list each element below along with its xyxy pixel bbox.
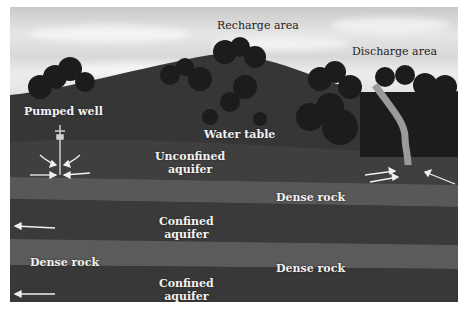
label-recharge-area: Recharge area (217, 19, 299, 32)
label-line: aquifer (155, 163, 225, 176)
label-pumped-well: Pumped well (24, 105, 103, 118)
label-dense-rock-left: Dense rock (30, 256, 99, 269)
groundwater-diagram: Recharge area Discharge area Pumped well… (10, 7, 458, 302)
label-line: Confined (159, 215, 214, 228)
label-water-table: Water table (204, 128, 275, 141)
label-dense-rock-upper: Dense rock (276, 191, 345, 204)
label-line: aquifer (159, 290, 214, 302)
label-confined-aquifer-lower: Confined aquifer (159, 277, 214, 302)
label-confined-aquifer-upper: Confined aquifer (159, 215, 214, 241)
confined-aquifer-upper-layer (10, 199, 458, 245)
label-line: Confined (159, 277, 214, 290)
label-unconfined-aquifer: Unconfined aquifer (155, 150, 225, 176)
label-line: Unconfined (155, 150, 225, 163)
label-dense-rock-right: Dense rock (276, 262, 345, 275)
confined-aquifer-lower-layer (10, 265, 458, 302)
label-discharge-area: Discharge area (352, 45, 437, 58)
label-line: aquifer (159, 228, 214, 241)
